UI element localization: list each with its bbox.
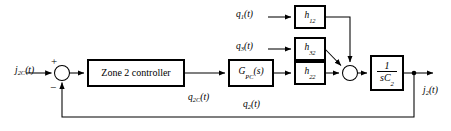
gpc-block-label: GPC(s) [229, 60, 273, 86]
left-summing-junction-shape [55, 66, 70, 81]
output-label: j2(t) [423, 86, 438, 96]
h32-feedin-wire [325, 49, 341, 66]
block-diagram-canvas: j2C(t) + − Zone 2 controller GPC(s) h12 … [0, 0, 451, 131]
integrator-block-label: 1 sC2 [371, 56, 403, 90]
h12-feedin-wire [325, 17, 350, 62]
plant-flow-label: q2(t) [243, 100, 260, 110]
summing-junction-plus-sign: + [51, 56, 57, 67]
h32-block-label: h32 [295, 38, 325, 60]
disturbance3-label: q3(t) [236, 42, 253, 52]
summing-junction-minus-sign: − [50, 82, 56, 93]
h12-block-label: h12 [295, 6, 325, 28]
output-tap-dot [412, 71, 417, 76]
reference-input-label: j2C(t) [15, 66, 34, 76]
right-summing-junction-shape [343, 66, 358, 81]
controller-block-label: Zone 2 controller [88, 60, 184, 86]
h22-block-label: h22 [295, 62, 325, 84]
controller-output-label: q2C(t) [188, 93, 209, 103]
disturbance1-label: q1(t) [236, 10, 253, 20]
